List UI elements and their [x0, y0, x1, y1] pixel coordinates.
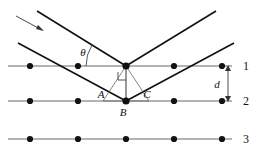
- plane-3-label: 3: [243, 132, 249, 146]
- atom: [171, 136, 177, 142]
- theta-arc-icon: [86, 45, 92, 66]
- atom: [122, 97, 129, 104]
- theta-label: θ: [80, 46, 86, 58]
- atom: [219, 63, 225, 69]
- atom: [75, 136, 81, 142]
- atom: [27, 98, 33, 104]
- spacing-label: d: [214, 78, 220, 90]
- atom: [75, 98, 81, 104]
- atom: [122, 62, 129, 69]
- atom: [219, 136, 225, 142]
- reflected-ray-upper: [126, 11, 216, 66]
- construction-vertex-to-a: [103, 66, 126, 101]
- construction-lines: [103, 66, 149, 101]
- plane-2-label: 2: [243, 94, 249, 108]
- incident-ray-lower: [18, 43, 126, 101]
- point-a-label: A: [97, 88, 105, 100]
- reflected-ray-lower: [126, 43, 234, 101]
- bragg-diagram-svg: θ d A B C 1 2 3: [0, 0, 262, 152]
- atom: [219, 98, 225, 104]
- plane-1-label: 1: [243, 59, 249, 73]
- bragg-diagram: θ d A B C 1 2 3: [0, 0, 262, 152]
- point-b-label: B: [120, 106, 127, 118]
- incident-rays: [18, 11, 126, 101]
- point-c-label: C: [143, 88, 151, 100]
- atom: [171, 63, 177, 69]
- spacing-arrow: [225, 65, 231, 102]
- beam-direction-arrowhead: [36, 25, 44, 31]
- beam-direction-arrow: [16, 16, 44, 31]
- atom: [123, 136, 129, 142]
- atom: [75, 63, 81, 69]
- lattice-planes: [8, 66, 232, 139]
- atom: [27, 63, 33, 69]
- atom: [27, 136, 33, 142]
- atom: [171, 98, 177, 104]
